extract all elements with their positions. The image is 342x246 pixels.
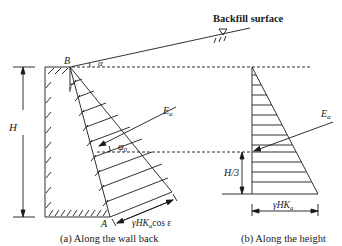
ea-right-label: Ea <box>320 108 331 121</box>
caption-a: (a) Along the wall back <box>60 233 159 245</box>
h-third-label: H/3 <box>223 167 239 178</box>
wall-hatch-left <box>46 82 51 208</box>
point-a-label: A <box>100 218 108 229</box>
backfill-surface-line <box>70 28 250 67</box>
alpha-arc <box>90 63 91 67</box>
h-third-dimension <box>240 152 244 194</box>
height-dimension <box>13 67 35 217</box>
epsilon-label: ε <box>69 84 72 92</box>
wall-hatch-bottom <box>49 210 107 216</box>
backfill-surface-label: Backfill surface <box>213 13 284 24</box>
ea-left-label: Ea <box>162 105 173 118</box>
caption-b: (b) Along the height <box>241 233 326 245</box>
dimension-height-label: γHKa <box>273 200 293 211</box>
dimension-wall-back-label: γHKacos ε <box>132 218 171 229</box>
alpha-label: α <box>98 58 103 68</box>
wall-hatch-top <box>48 68 68 74</box>
retaining-wall <box>45 67 110 217</box>
point-b-label: B <box>64 55 70 66</box>
earth-pressure-diagram: Backfill surface B α ε H φ0 Ea Ea A γHKa… <box>0 0 342 246</box>
height-label: H <box>8 121 18 133</box>
backfill-surface-symbol <box>214 29 227 43</box>
